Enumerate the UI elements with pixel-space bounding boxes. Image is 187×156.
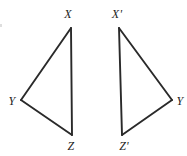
triangle-xyz <box>21 28 72 135</box>
edge-XY <box>21 28 71 100</box>
label-z: Z <box>68 140 75 152</box>
geometry-figure: X Y Z X' Y Z' <box>0 0 187 156</box>
triangles-canvas <box>0 0 187 156</box>
label-y-left: Y <box>9 95 16 107</box>
edge-YZp <box>122 100 172 135</box>
edge-XpY <box>119 28 172 100</box>
label-y-right: Y <box>177 95 184 107</box>
edge-YZ <box>21 100 72 135</box>
scan-artifact <box>0 24 2 27</box>
edge-ZpXp <box>119 28 122 135</box>
edge-ZX <box>71 28 72 135</box>
label-x: X <box>64 8 72 20</box>
label-z-prime: Z' <box>119 140 129 152</box>
triangle-x-prime-y-z-prime <box>119 28 172 135</box>
label-x-prime: X' <box>112 8 122 20</box>
